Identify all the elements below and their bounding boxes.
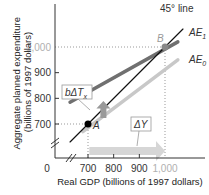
x-tick-label: 1,000 xyxy=(152,163,177,174)
label-45-line: 45° line xyxy=(160,3,194,14)
x-tick-label: 0 xyxy=(44,163,50,174)
point-a xyxy=(85,121,92,128)
shift-arrows xyxy=(89,101,165,161)
x-tick-label: 800 xyxy=(105,163,122,174)
label-ae1: AE1 xyxy=(188,27,206,40)
tax-shift-leader xyxy=(78,99,90,110)
y-tick-label: 800 xyxy=(34,93,51,104)
point-b-label: B xyxy=(157,33,164,44)
delta-y-label: ΔY xyxy=(133,119,149,130)
y-tick-label: 700 xyxy=(34,119,51,130)
y-axis-label-line1: Aggregate planned expenditure xyxy=(11,17,22,150)
point-a-label: A xyxy=(92,120,100,131)
y-axis-label: Aggregate planned expenditure (billions … xyxy=(11,14,33,149)
point-b xyxy=(162,44,169,51)
x-axis-label: Real GDP (billions of 1997 dollars) xyxy=(57,176,203,187)
chart: 7008009001,00007008009001,000 Real GDP (… xyxy=(0,0,209,195)
y-axis-label-line2: (billions of 1997 dollars) xyxy=(22,32,33,132)
x-tick-label: 700 xyxy=(80,163,97,174)
delta-y-leader xyxy=(137,131,139,146)
x-tick-label: 900 xyxy=(131,163,148,174)
label-ae0: AE0 xyxy=(188,54,206,67)
y-tick-label: 900 xyxy=(34,67,51,78)
